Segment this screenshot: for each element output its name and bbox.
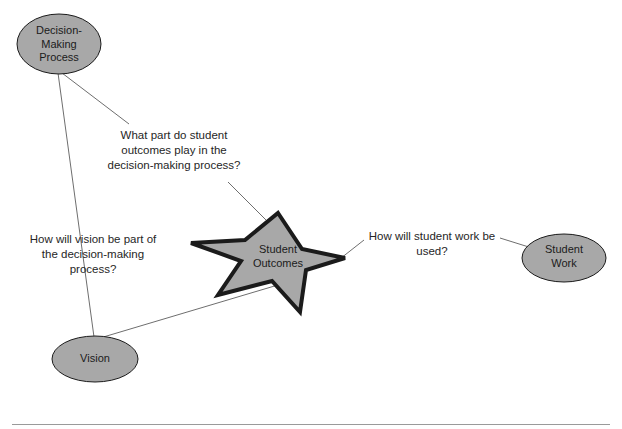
node-decision-making-process[interactable] [17, 14, 101, 74]
node-student-work[interactable] [522, 234, 606, 282]
node-vision[interactable] [52, 336, 138, 382]
annotation-student-work-used: How will student work be used? [356, 229, 508, 259]
bottom-divider [12, 424, 610, 425]
edge-outcomes-to-annotation-lower [228, 182, 268, 222]
concept-map-canvas: Decision- Making Process Student Outcome… [0, 0, 622, 429]
annotation-decision-outcomes: What part do student outcomes play in th… [92, 128, 256, 173]
edge-decision-to-outcomes-upper [62, 73, 129, 124]
edge-decision-to-vision [58, 73, 94, 337]
annotation-vision-decision: How will vision be part of the decision-… [12, 232, 174, 277]
edge-vision-to-outcomes [100, 279, 298, 338]
node-student-outcomes[interactable] [191, 213, 345, 312]
diagram-svg [0, 0, 622, 429]
